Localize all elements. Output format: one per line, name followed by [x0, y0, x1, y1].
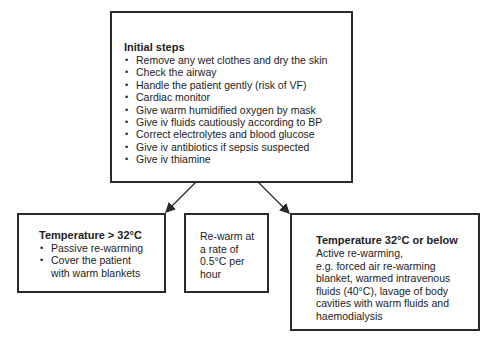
- list-item: Handle the patient gently (risk of VF): [124, 79, 351, 91]
- list-item: Give warm humidified oxygen by mask: [124, 104, 351, 116]
- list-item: Give iv antibiotics if sepsis suspected: [124, 141, 351, 153]
- list-item: Remove any wet clothes and dry the skin: [124, 54, 351, 66]
- rewarm-rate-line: hour: [200, 268, 267, 281]
- below-32-line: e.g. forced air re-warming: [316, 260, 478, 273]
- initial-steps-box: Initial steps Remove any wet clothes and…: [110, 11, 353, 183]
- rewarm-rate-line: a rate of: [200, 243, 267, 256]
- list-item: Give iv thiamine: [124, 153, 351, 165]
- rewarm-rate-line: 0.5°C per: [200, 255, 267, 268]
- arrow-to-below32: [258, 182, 289, 213]
- rewarm-rate-box: Re-warm at a rate of 0.5°C per hour: [184, 213, 269, 293]
- below-32-line: fluids (40°C), lavage of body: [316, 285, 478, 298]
- list-item: Check the airway: [124, 66, 351, 78]
- below-32-line: blanket, warmed intravenous: [316, 272, 478, 285]
- below-32-line: Active re-warming,: [316, 247, 478, 260]
- list-item: Cover the patient with warm blankets: [39, 254, 151, 279]
- above-32-title: Temperature > 32°C: [39, 229, 164, 242]
- below-32-line: haemodialysis: [316, 310, 478, 323]
- list-item: Cardiac monitor: [124, 91, 351, 103]
- arrow-to-above32: [166, 182, 196, 212]
- below-32-title: Temperature 32°C or below: [316, 234, 478, 247]
- list-item: Passive re-warming: [39, 242, 164, 254]
- rewarm-rate-line: Re-warm at: [200, 230, 267, 243]
- list-item: Correct electrolytes and blood glucose: [124, 128, 351, 140]
- initial-steps-title: Initial steps: [124, 41, 351, 54]
- below-32-box: Temperature 32°C or below Active re-warm…: [290, 213, 480, 331]
- below-32-line: cavities with warm fluids and: [316, 297, 478, 310]
- initial-steps-list: Remove any wet clothes and dry the skin …: [124, 54, 351, 166]
- above-32-list: Passive re-warming Cover the patient wit…: [39, 242, 164, 279]
- list-item: Give iv fluids cautiously according to B…: [124, 116, 351, 128]
- above-32-box: Temperature > 32°C Passive re-warming Co…: [17, 213, 166, 293]
